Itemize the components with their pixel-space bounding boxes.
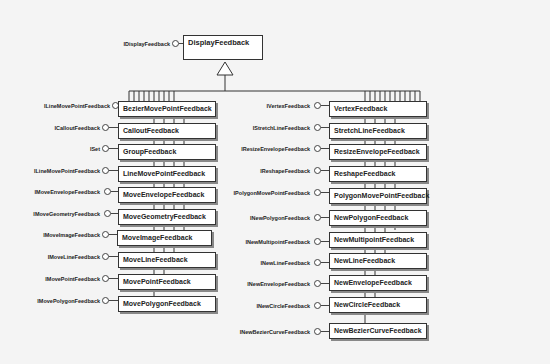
interface-stem bbox=[109, 278, 118, 279]
class-box: NewEnvelopeFeedback bbox=[329, 275, 427, 291]
class-box: NewCircleFeedback bbox=[329, 297, 427, 313]
class-box: MoveGeometryFeedback bbox=[118, 209, 216, 225]
interface-stem bbox=[321, 331, 329, 332]
interface-stem bbox=[321, 217, 329, 218]
interface-lollipop-icon bbox=[102, 297, 109, 304]
interface-label-root: IDisplayFeedback bbox=[120, 40, 170, 48]
interface-lollipop-icon bbox=[102, 145, 109, 152]
interface-lollipop-icon bbox=[314, 302, 321, 309]
class-box: LineMovePointFeedback bbox=[118, 166, 216, 182]
interface-lollipop-icon bbox=[314, 145, 321, 152]
interface-stem bbox=[111, 191, 118, 192]
interface-lollipop-icon bbox=[314, 238, 321, 245]
class-box: MoveEnvelopeFeedback bbox=[118, 187, 216, 203]
interface-lollipop-icon bbox=[314, 189, 321, 196]
class-box: StretchLineFeedback bbox=[329, 123, 427, 139]
interface-lollipop-icon bbox=[102, 167, 109, 174]
interface-label: IVertexFeedback bbox=[220, 102, 310, 110]
interface-lollipop-icon bbox=[314, 102, 321, 109]
interface-label: IMovePolygonFeedback bbox=[0, 297, 100, 305]
interface-stem bbox=[109, 234, 117, 235]
interface-stem bbox=[321, 192, 329, 193]
interface-stem bbox=[321, 127, 329, 128]
interface-label: ILineMovePointFeedback bbox=[0, 167, 100, 175]
interface-label: INewBezierCurveFeedback bbox=[220, 328, 310, 336]
interface-label: ISet bbox=[0, 145, 100, 153]
interface-label: IPolygonMovePointFeedback bbox=[220, 189, 310, 197]
class-box: MoveImageFeedback bbox=[117, 230, 212, 246]
interface-label: IMoveGeometryFeedback bbox=[0, 210, 100, 218]
interface-label: INewMultipointFeedback bbox=[220, 238, 310, 246]
interface-stem bbox=[109, 148, 118, 149]
interface-stem bbox=[321, 170, 329, 171]
interface-stem bbox=[321, 148, 329, 149]
interface-lollipop-icon bbox=[172, 40, 179, 47]
interface-lollipop-icon bbox=[314, 280, 321, 287]
interface-label: ICalloutFeedback bbox=[0, 124, 100, 132]
interface-lollipop-icon bbox=[314, 167, 321, 174]
interface-lollipop-icon bbox=[314, 214, 321, 221]
interface-stem bbox=[109, 170, 118, 171]
class-box-root: DisplayFeedback bbox=[183, 35, 263, 60]
interface-label: IMoveEnvelopeFeedback bbox=[0, 188, 100, 196]
interface-lollipop-icon bbox=[104, 210, 111, 217]
interface-label: INewEnvelopeFeedback bbox=[220, 280, 310, 288]
interface-label: INewLineFeedback bbox=[220, 259, 310, 267]
interface-stem bbox=[321, 105, 329, 106]
class-box: MoveLineFeedback bbox=[118, 252, 216, 268]
interface-label: IMoveImageFeedback bbox=[0, 231, 100, 239]
class-box: NewLineFeedback bbox=[329, 253, 427, 269]
class-box: NewPolygonFeedback bbox=[329, 210, 427, 226]
class-box: CalloutFeedback bbox=[118, 123, 216, 139]
interface-lollipop-icon bbox=[314, 328, 321, 335]
interface-label: IStretchLineFeedback bbox=[220, 124, 310, 132]
interface-label: INewCircleFeedback bbox=[220, 302, 310, 310]
class-box: ResizeEnvelopeFeedback bbox=[329, 144, 427, 160]
interface-stem bbox=[109, 300, 118, 301]
interface-lollipop-icon bbox=[104, 188, 111, 195]
class-box: PolygonMovePointFeedback bbox=[329, 188, 427, 204]
interface-label: INewPolygonFeedback bbox=[220, 214, 310, 222]
class-box: NewBezierCurveFeedback bbox=[329, 323, 427, 339]
interface-lollipop-icon bbox=[102, 275, 109, 282]
interface-stem bbox=[321, 262, 329, 263]
class-box: ReshapeFeedback bbox=[329, 166, 427, 182]
class-box: VertexFeedback bbox=[329, 101, 427, 117]
class-box: MovePolygonFeedback bbox=[118, 296, 216, 312]
class-box: GroupFeedback bbox=[118, 144, 216, 160]
interface-label: IMoveLineFeedback bbox=[0, 253, 100, 261]
interface-label: ILineMovePointFeedback bbox=[0, 102, 110, 110]
class-box: MovePointFeedback bbox=[118, 274, 216, 290]
interface-stem bbox=[321, 283, 329, 284]
interface-stem bbox=[109, 256, 118, 257]
interface-stem bbox=[109, 127, 118, 128]
interface-stem bbox=[321, 241, 329, 242]
interface-label: IResizeEnvelopeFeedback bbox=[220, 145, 310, 153]
interface-lollipop-icon bbox=[102, 231, 109, 238]
interface-lollipop-icon bbox=[102, 253, 109, 260]
class-box: NewMultipointFeedback bbox=[329, 232, 427, 248]
diagram-canvas: IDisplayFeedback DisplayFeedback ILineMo… bbox=[0, 0, 550, 364]
interface-stem bbox=[321, 305, 329, 306]
interface-stem bbox=[111, 213, 118, 214]
interface-label: IMovePointFeedback bbox=[0, 275, 100, 283]
interface-lollipop-icon bbox=[314, 259, 321, 266]
class-box: BezierMovePointFeedback bbox=[118, 101, 216, 117]
interface-lollipop-icon bbox=[314, 124, 321, 131]
interface-lollipop-icon bbox=[102, 124, 109, 131]
interface-label: IReshapeFeedback bbox=[220, 167, 310, 175]
